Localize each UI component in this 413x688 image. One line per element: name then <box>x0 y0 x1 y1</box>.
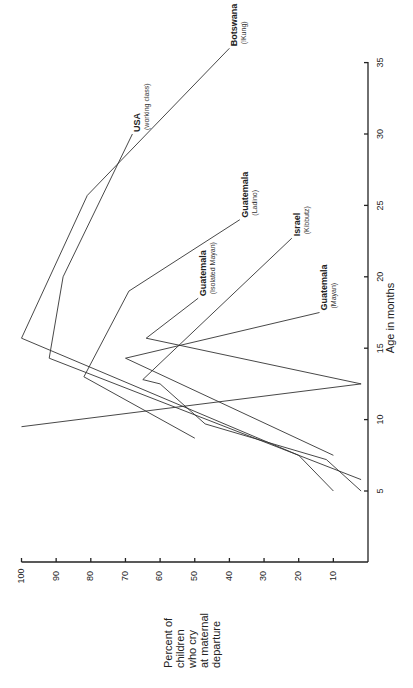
y-axis-title: Percent ofchildrenwho cryat maternaldepa… <box>162 613 222 669</box>
age-tick-label: 10 <box>375 415 385 425</box>
percent-tick-label: 20 <box>293 571 303 581</box>
series-subname: (working class) <box>143 83 151 130</box>
series-subname: (Kibbutz) <box>303 206 311 234</box>
series-name: Israel <box>292 213 302 237</box>
percent-tick-label: 100 <box>16 568 26 583</box>
percent-tick-label: 60 <box>154 571 164 581</box>
series-name: Guatemala <box>198 249 208 296</box>
series-subname: (Isolated Mayan) <box>209 242 217 294</box>
series-name: Guatemala <box>240 171 250 218</box>
series-line <box>22 48 334 491</box>
y-axis-title-line: departure <box>210 621 222 668</box>
series-line <box>126 313 334 456</box>
y-axis-title-line: children <box>174 629 186 668</box>
percent-tick-label: 90 <box>51 571 61 581</box>
age-tick-label: 30 <box>375 129 385 139</box>
series-name: Botswana <box>229 3 239 47</box>
y-axis-title-line: at maternal <box>198 613 210 668</box>
series-label: Guatemala(Isolated Mayan) <box>198 242 217 296</box>
percent-tick-label: 30 <box>258 571 268 581</box>
series-label: USA(working class) <box>132 83 151 132</box>
series-line <box>22 298 362 427</box>
series-subname: (!Kung) <box>240 21 248 44</box>
percent-tick-label: 40 <box>224 571 234 581</box>
y-axis-title-line: who cry <box>186 630 198 669</box>
axes <box>22 62 369 562</box>
series-labels: Botswana(!Kung)USA(working class)Guatema… <box>132 3 338 311</box>
percent-tick-label: 80 <box>85 571 95 581</box>
percent-tick-label: 10 <box>328 571 338 581</box>
age-tick-label: 35 <box>375 58 385 68</box>
series-lines <box>22 48 362 491</box>
age-tick-label: 5 <box>375 488 385 493</box>
percent-tick-label: 50 <box>189 571 199 581</box>
y-axis-title-line: Percent of <box>162 617 174 668</box>
chart: 5101520253035 102030405060708090100 Bots… <box>0 0 413 688</box>
series-label: Israel(Kibbutz) <box>292 206 311 236</box>
series-line <box>84 220 240 439</box>
series-label: Botswana(!Kung) <box>229 3 248 47</box>
series-label: Guatemala(Mayan) <box>319 263 338 310</box>
age-tick-label: 25 <box>375 200 385 210</box>
age-tick-label: 20 <box>375 272 385 282</box>
percent-tick-label: 70 <box>120 571 130 581</box>
series-label: Guatemala(Ladino) <box>240 171 259 218</box>
series-name: Guatemala <box>319 263 329 310</box>
series-name: USA <box>132 112 142 132</box>
series-subname: (Mayan) <box>330 283 338 309</box>
x-axis-title: Age in months <box>384 282 396 353</box>
series-subname: (Ladino) <box>251 190 259 216</box>
age-ticks: 5101520253035 <box>364 58 385 494</box>
